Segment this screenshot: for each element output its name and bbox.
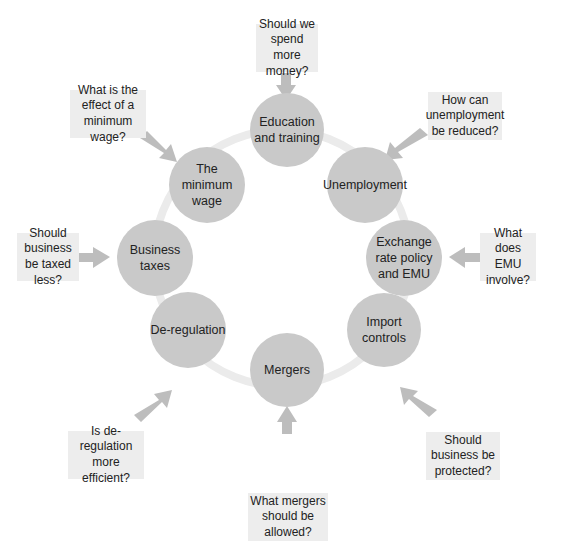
question-mergers: What mergers should be allowed? (248, 493, 328, 541)
node-business-taxes: Business taxes (117, 220, 193, 296)
question-text: What is the effect of a minimum wage? (70, 83, 146, 145)
question-text: What does EMU involve? (481, 226, 535, 288)
question-exchange-rate: What does EMU involve? (480, 233, 536, 281)
node-education-training: Education and training (250, 93, 324, 167)
question-education: Should we spend more money? (256, 24, 318, 72)
node-label: Mergers (264, 362, 310, 378)
question-business-taxes: Should business be taxed less? (17, 233, 79, 281)
node-label: Import controls (359, 314, 409, 347)
node-minimum-wage: The minimum wage (169, 147, 245, 223)
node-label: De-regulation (150, 322, 225, 338)
node-label: Unemployment (323, 177, 407, 193)
question-text: Is de-regulation more efficient? (68, 424, 144, 486)
question-text: Should business be taxed less? (17, 226, 79, 288)
node-label: Business taxes (128, 242, 183, 275)
question-text: How can unemployment be reduced? (426, 93, 505, 140)
question-text: What mergers should be allowed? (248, 494, 328, 541)
question-text: Should business be protected? (426, 433, 500, 480)
node-label: The minimum wage (173, 161, 241, 210)
node-mergers: Mergers (250, 333, 324, 407)
node-unemployment: Unemployment (327, 147, 403, 223)
question-de-regulation: Is de-regulation more efficient? (68, 431, 144, 479)
node-label: Exchange rate policy and EMU (373, 234, 435, 283)
node-import-controls: Import controls (347, 293, 421, 367)
question-text: Should we spend more money? (256, 17, 318, 79)
node-de-regulation: De-regulation (150, 292, 226, 368)
node-label: Education and training (250, 114, 324, 147)
question-import-controls: Should business be protected? (426, 432, 500, 480)
node-exchange-rate: Exchange rate policy and EMU (366, 220, 442, 296)
question-unemployment: How can unemployment be reduced? (428, 92, 502, 140)
question-minimum-wage: What is the effect of a minimum wage? (70, 90, 146, 138)
